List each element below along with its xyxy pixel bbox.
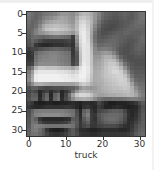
y-tick-label: 15: [12, 68, 23, 77]
right-border: [152, 0, 154, 170]
image-plot: [27, 12, 145, 136]
x-tick-label: 20: [97, 140, 108, 149]
y-tick-label: 0: [17, 10, 23, 19]
image-pixel: [141, 132, 145, 136]
x-tick-label: 30: [134, 140, 145, 149]
x-axis-label: truck: [74, 151, 97, 160]
x-tick-label: 0: [26, 140, 32, 149]
y-tick-label: 25: [12, 106, 23, 115]
x-tick-label: 10: [60, 140, 71, 149]
y-tick-label: 10: [12, 48, 23, 57]
y-tick-label: 30: [12, 126, 23, 135]
y-tick-label: 5: [17, 29, 23, 38]
top-border: [0, 0, 154, 3]
y-tick-label: 20: [12, 87, 23, 96]
